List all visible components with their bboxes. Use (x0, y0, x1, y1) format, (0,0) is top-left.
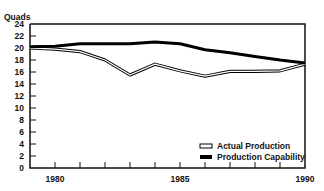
x-tick-label: 1985 (171, 174, 190, 184)
line-chart: Quads 024681012141618202224 198019851990… (0, 0, 324, 191)
y-tick-label: 2 (19, 151, 24, 161)
y-tick-label: 14 (15, 79, 25, 89)
x-axis: 198019851990 (46, 162, 315, 184)
y-tick-label: 18 (15, 55, 25, 65)
production-capability-line (30, 42, 305, 63)
legend-label: Actual Production (217, 141, 290, 151)
y-tick-label: 22 (15, 31, 25, 41)
legend-swatch-actual-production (200, 144, 212, 148)
legend-swatch-production-capability (200, 155, 212, 159)
y-tick-label: 12 (15, 91, 25, 101)
y-tick-label: 10 (15, 103, 25, 113)
x-tick-label: 1990 (296, 174, 315, 184)
y-tick-label: 20 (15, 43, 25, 53)
y-tick-label: 24 (15, 19, 25, 29)
legend-label: Production Capability (217, 152, 305, 162)
y-tick-label: 6 (19, 127, 24, 137)
actual-production-line-outline (30, 48, 305, 76)
plot-lines (30, 42, 305, 76)
y-tick-label: 16 (15, 67, 25, 77)
y-tick-label: 4 (19, 139, 24, 149)
y-tick-label: 8 (19, 115, 24, 125)
y-tick-label: 0 (19, 163, 24, 173)
legend: Actual ProductionProduction Capability (200, 141, 305, 162)
x-tick-label: 1980 (46, 174, 65, 184)
y-axis: 024681012141618202224 (15, 19, 36, 173)
